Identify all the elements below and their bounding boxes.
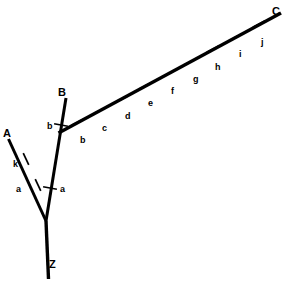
- tick-mark-c-branch-c: [93, 108, 105, 115]
- tick-label-g: g: [193, 74, 199, 84]
- terminal-labels-group: ABCZ: [3, 5, 280, 270]
- tick-labels-group: kaabbcdefghij: [13, 37, 264, 194]
- tick-mark-g-branch-c: [184, 59, 196, 66]
- tick-label-c: c: [102, 123, 107, 133]
- tick-label-b: b: [80, 135, 86, 145]
- tick-mark-k-branch-a: [23, 153, 29, 165]
- tick-label-a: a: [16, 184, 22, 194]
- tick-mark-e-branch-c: [139, 83, 151, 90]
- tick-label-b: b: [47, 121, 53, 131]
- tick-mark-d-branch-c: [116, 96, 128, 103]
- tick-mark-i-branch-c: [230, 34, 242, 41]
- tick-label-i: i: [239, 49, 242, 59]
- tick-label-e: e: [148, 98, 153, 108]
- tick-label-j: j: [260, 37, 264, 47]
- tick-marks-group: [23, 21, 265, 191]
- branch-b: [46, 98, 66, 221]
- diagram-canvas: kaabbcdefghij ABCZ: [0, 0, 291, 302]
- tick-label-f: f: [171, 86, 175, 96]
- branch-a: [9, 139, 47, 221]
- branching-diagram: kaabbcdefghij ABCZ: [0, 0, 291, 302]
- tick-mark-b-branch-b: [54, 124, 68, 126]
- trunk-z: [46, 221, 49, 279]
- terminal-label-C: C: [272, 5, 280, 17]
- tick-label-a: a: [60, 184, 66, 194]
- tick-label-h: h: [215, 62, 221, 72]
- terminal-label-A: A: [3, 127, 11, 139]
- tick-mark-a-branch-a: [35, 179, 41, 191]
- tick-mark-f-branch-c: [162, 71, 174, 78]
- terminal-label-B: B: [58, 86, 66, 98]
- terminal-label-Z: Z: [49, 258, 56, 270]
- tick-label-d: d: [125, 111, 131, 121]
- tick-mark-a-branch-b: [43, 187, 57, 189]
